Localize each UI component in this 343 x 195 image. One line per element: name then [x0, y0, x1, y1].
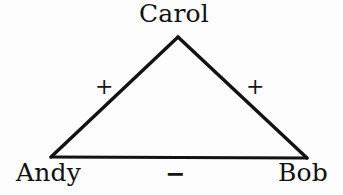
diagram-canvas: Carol Andy Bob + + −	[0, 0, 343, 195]
triangle-edges	[51, 37, 307, 158]
edge-andy-carol	[51, 37, 178, 157]
node-label-carol: Carol	[139, 1, 209, 26]
edge-carol-bob	[178, 37, 307, 158]
edge-sign-andy-bob: −	[165, 162, 185, 186]
node-label-andy: Andy	[16, 160, 81, 185]
edge-sign-andy-carol: +	[95, 76, 113, 98]
edge-sign-carol-bob: +	[246, 76, 264, 98]
edge-andy-bob	[51, 157, 307, 158]
node-label-bob: Bob	[278, 160, 328, 185]
